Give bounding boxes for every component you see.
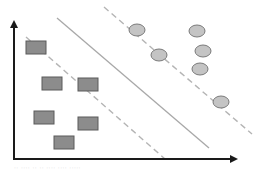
square-point xyxy=(78,117,98,130)
circle-point xyxy=(129,24,145,36)
class-b-circles xyxy=(129,24,229,108)
square-point xyxy=(26,41,46,54)
square-point xyxy=(42,77,62,90)
circle-point xyxy=(151,49,167,61)
caption-text: ·· ···· ·· ·· ···· ···· ····· xyxy=(14,163,254,173)
lower-margin-line xyxy=(26,37,165,159)
circle-point xyxy=(192,63,208,75)
upper-margin-line xyxy=(104,7,252,134)
class-a-squares xyxy=(26,41,98,149)
circle-point xyxy=(195,45,211,57)
square-point xyxy=(78,78,98,91)
circle-point xyxy=(213,96,229,108)
circle-point xyxy=(189,25,205,37)
square-point xyxy=(34,111,54,124)
square-point xyxy=(54,136,74,149)
svm-diagram xyxy=(0,0,262,173)
